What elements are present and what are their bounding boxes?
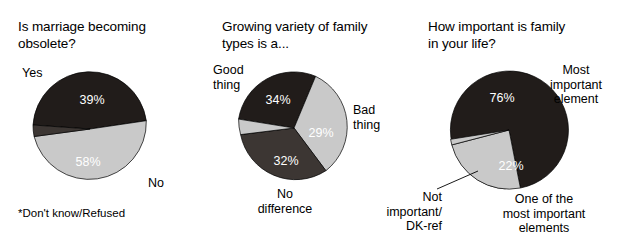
chart-panel-family-importance: How important is family in your life? 76… bbox=[410, 0, 617, 236]
pie-value-no-difference: 32% bbox=[273, 154, 298, 168]
pie-label-yes: Yes bbox=[22, 66, 82, 81]
pie-label-most-important: Most important element bbox=[538, 63, 614, 107]
pie-value-most-important: 76% bbox=[489, 91, 514, 105]
pie-label-not-important: Not important/ DK-ref bbox=[372, 190, 442, 234]
pie-label-no: No bbox=[148, 176, 198, 191]
pie-value-one-of-most-important: 22% bbox=[498, 159, 523, 173]
pie-label-one-of-most-important: One of the most important elements bbox=[485, 192, 603, 236]
pie-label-no-difference: No difference bbox=[245, 187, 325, 216]
pie-value-yes: 39% bbox=[79, 93, 104, 107]
pie-label-bad-thing: Bad thing bbox=[353, 103, 408, 132]
pie-value-no: 58% bbox=[75, 155, 100, 169]
pie-value-good-thing: 34% bbox=[265, 93, 290, 107]
chart-panel-marriage-obsolete: Is marriage becoming obsolete? 39% 58% Y… bbox=[0, 0, 205, 236]
pie-chart-marriage-obsolete: 39% 58% bbox=[0, 0, 205, 236]
footnote-dont-know-refused: *Don't know/Refused bbox=[18, 206, 125, 220]
pie-value-bad-thing: 29% bbox=[308, 126, 333, 140]
pie-label-good-thing: Good thing bbox=[213, 63, 265, 92]
